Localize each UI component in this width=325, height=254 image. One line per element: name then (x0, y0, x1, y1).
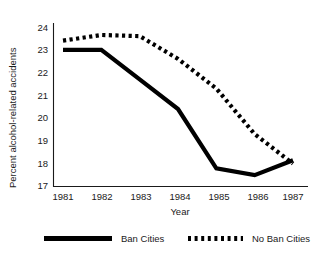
x-tick-label-1981: 1981 (52, 191, 73, 202)
x-tick-label-1982: 1982 (91, 191, 112, 202)
y-tick-label-20: 20 (37, 112, 48, 123)
alcohol-accidents-line-chart: Percent alcohol-related accidents 24 23 … (0, 0, 325, 254)
chart-canvas: Percent alcohol-related accidents 24 23 … (0, 0, 325, 254)
legend-label-no-ban-cities: No Ban Cities (252, 233, 310, 244)
y-tick-label-18: 18 (37, 158, 48, 169)
axis-lines (54, 23, 309, 187)
y-tick-label-19: 19 (37, 135, 48, 146)
x-tick-label-1987: 1987 (282, 191, 303, 202)
x-tick-label-1983: 1983 (130, 191, 151, 202)
x-axis-tick-labels: 1981 1982 1983 1984 1985 1986 1987 (52, 191, 303, 202)
plot-series-group (63, 35, 293, 175)
series-line-ban-cities (63, 50, 293, 175)
x-tick-label-1986: 1986 (247, 191, 268, 202)
x-tick-label-1985: 1985 (208, 191, 229, 202)
y-tick-label-23: 23 (37, 44, 48, 55)
y-axis-title: Percent alcohol-related accidents (7, 47, 18, 188)
legend: Ban Cities No Ban Cities (44, 233, 310, 244)
y-axis-tick-labels: 24 23 22 21 20 19 18 17 (37, 22, 48, 192)
y-axis-title-group: Percent alcohol-related accidents (7, 47, 18, 188)
y-tick-label-22: 22 (37, 67, 48, 78)
y-tick-label-17: 17 (37, 180, 48, 191)
y-tick-label-24: 24 (37, 22, 48, 33)
x-axis-title: Year (170, 206, 189, 217)
x-tick-label-1984: 1984 (169, 191, 190, 202)
y-tick-label-21: 21 (37, 90, 48, 101)
series-line-no-ban-cities (63, 35, 293, 164)
legend-label-ban-cities: Ban Cities (121, 233, 165, 244)
